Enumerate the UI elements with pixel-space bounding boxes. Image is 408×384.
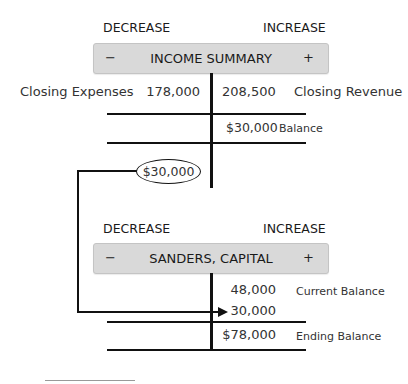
closing-expenses-amount: 178,000 [145,84,200,99]
sanders-capital-header: − SANDERS, CAPITAL + [93,243,329,274]
transfer-amount: $30,000 [143,164,195,179]
current-balance-label: Current Balance [296,285,385,298]
income-balance-label: Balance [279,122,323,135]
sanders-capital-title: SANDERS, CAPITAL [94,251,328,266]
ending-balance-label: Ending Balance [296,330,381,343]
income-summary-header: − INCOME SUMMARY + [93,43,329,74]
capital-total-rule [107,321,306,323]
income-balance-amount: $30,000 [226,120,278,135]
capital-t-vertical-line [210,273,213,351]
income-decrease-label: DECREASE [103,20,170,35]
connector-vertical-segment [77,170,79,313]
capital-ending-rule [107,349,306,351]
transfer-amount-oval: $30,000 [136,159,201,184]
connector-bottom-segment [77,311,220,313]
connector-top-segment [77,170,137,172]
income-summary-title: INCOME SUMMARY [94,51,328,66]
ending-balance-amount: $78,000 [220,327,276,342]
closing-expenses-label: Closing Expenses [20,84,134,99]
capital-increase-label: INCREASE [263,221,326,236]
footnote-rule [45,380,135,381]
capital-decrease-label: DECREASE [103,221,170,236]
income-t-vertical-line [210,73,213,188]
plus-icon: + [303,50,314,65]
transferred-amount: 30,000 [220,303,276,318]
closing-revenue-label: Closing Revenue [294,84,402,99]
closing-revenue-amount: 208,500 [222,84,276,99]
current-balance-amount: 48,000 [220,282,276,297]
plus-icon: + [303,250,314,265]
income-increase-label: INCREASE [263,20,326,35]
income-total-rule [107,113,306,115]
income-balance-rule [107,142,306,144]
